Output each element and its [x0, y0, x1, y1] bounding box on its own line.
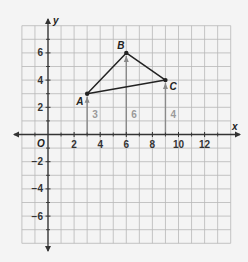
vertex-point-c	[163, 78, 167, 82]
y-axis-arrow-up-icon	[45, 18, 51, 24]
height-segment-label: 3	[92, 109, 98, 120]
y-axis-arrow-down-icon	[45, 246, 51, 252]
x-tick-label: 8	[150, 139, 156, 150]
x-tick-label: 4	[97, 139, 103, 150]
height-arrow-up-icon	[124, 56, 129, 62]
y-tick-label: −4	[32, 183, 44, 194]
x-tick-label: 6	[124, 139, 130, 150]
vertex-point-b	[124, 51, 128, 55]
x-axis-arrow-right-icon	[235, 132, 241, 138]
vertex-label-b: B	[117, 40, 124, 51]
coordinate-plane: 364 x y O 24681012642−2−4−6 ABC	[0, 0, 248, 262]
y-tick-label: −6	[32, 211, 44, 222]
origin-label: O	[37, 138, 45, 149]
x-tick-label: 10	[173, 139, 185, 150]
height-segments: 364	[85, 56, 177, 135]
height-arrow-up-icon	[85, 97, 90, 103]
height-segment-label: 4	[170, 109, 176, 120]
x-axis-label: x	[231, 121, 238, 132]
x-tick-label: 2	[71, 139, 77, 150]
height-segment-label: 6	[131, 109, 137, 120]
vertex-point-a	[85, 92, 89, 96]
y-tick-label: 2	[37, 102, 43, 113]
y-tick-label: 4	[37, 75, 43, 86]
vertex-label-a: A	[75, 96, 83, 107]
height-arrow-up-icon	[163, 83, 168, 89]
x-axis-arrow-left-icon	[13, 132, 19, 138]
y-tick-label: 6	[37, 47, 43, 58]
y-tick-label: −2	[32, 156, 44, 167]
vertex-label-c: C	[169, 81, 177, 92]
x-tick-label: 12	[199, 139, 211, 150]
y-axis-label: y	[52, 15, 59, 26]
coordinate-plane-figure: 364 x y O 24681012642−2−4−6 ABC	[0, 0, 248, 262]
